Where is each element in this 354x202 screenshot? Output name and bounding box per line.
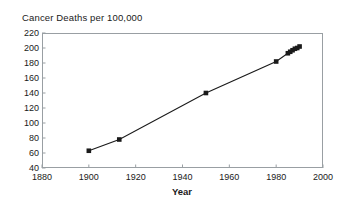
x-tick-label: 1880 bbox=[32, 173, 52, 182]
x-tick-label: 2000 bbox=[313, 173, 333, 182]
x-tick-label: 1940 bbox=[172, 173, 192, 182]
x-tick-label: 1980 bbox=[266, 173, 286, 182]
x-axis-title: Year bbox=[172, 186, 192, 197]
x-tick-label: 1900 bbox=[79, 173, 99, 182]
x-tick-label: 1960 bbox=[219, 173, 239, 182]
x-tick-label: 1920 bbox=[126, 173, 146, 182]
x-axis-tick-labels: 1880190019201940196019802000 bbox=[0, 0, 354, 202]
chart-figure: Cancer Deaths per 100,000 40608010012014… bbox=[0, 0, 354, 202]
